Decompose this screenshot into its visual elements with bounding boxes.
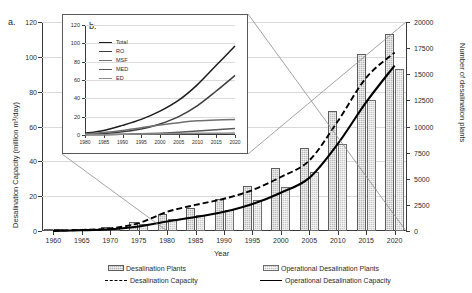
right-tick-label: 17500: [414, 45, 433, 52]
inset-x-tick: [123, 135, 124, 138]
legend-swatch-desalination-plants: [108, 265, 124, 271]
x-tick-label: 1980: [159, 237, 175, 244]
x-tick-label: 2015: [358, 237, 374, 244]
inset-x-tick-label: 2000: [154, 139, 165, 145]
x-tick-label: 1985: [188, 237, 204, 244]
x-tick-label: 1970: [102, 237, 118, 244]
leader-line-0: [248, 14, 406, 231]
inset-y-tick-label: 80: [63, 59, 80, 65]
x-tick: [366, 231, 367, 235]
inset-legend-line-med: [99, 69, 112, 71]
x-tick: [196, 231, 197, 235]
inset-x-tick-label: 1990: [117, 139, 128, 145]
inset-x-tick-label: 1995: [136, 139, 147, 145]
left-tick-label: 0: [12, 228, 37, 235]
right-tick-label: 7500: [414, 149, 430, 156]
inset-legend-label-ro: RO: [116, 48, 124, 54]
left-axis-title: Desalination Capacity (million m³/day): [12, 102, 20, 228]
left-tick-label: 80: [12, 88, 37, 95]
inset-legend-label-msf: MSF: [116, 57, 128, 63]
right-tick-label: 20000: [414, 19, 433, 26]
right-tick-label: 10000: [414, 123, 433, 130]
left-tick: [38, 231, 42, 232]
x-tick-label: 2020: [387, 237, 403, 244]
inset-legend-label-total: Total: [116, 39, 128, 45]
left-tick-label: 60: [12, 123, 37, 130]
inset-x-tick: [179, 135, 180, 138]
inset-legend-line-total: [99, 42, 112, 44]
x-tick: [395, 231, 396, 235]
x-tick: [338, 231, 339, 235]
x-tick: [110, 231, 111, 235]
legend-label-desalination-plants: Desalination Plants: [126, 265, 186, 272]
inset-x-tick: [198, 135, 199, 138]
figure-canvas: a. Desalination Capacity (million m³/day…: [0, 0, 472, 293]
right-tick-label: 15000: [414, 71, 433, 78]
inset-y-tick-label: 120: [63, 22, 80, 28]
legend-line-operational-desalination-capacity: [260, 280, 282, 281]
right-tick-label: 0: [414, 228, 418, 235]
inset-y-tick-label: 40: [63, 95, 80, 101]
legend-line-desalination-capacity: [105, 280, 127, 281]
inset-legend-label-ed: ED: [116, 75, 124, 81]
inset-panel-b: b. 020406080100120 198019851990199520002…: [62, 14, 248, 154]
inset-line-msf: [85, 119, 235, 134]
inset-y-tick-label: 100: [63, 40, 80, 46]
leader-line-2: [248, 22, 406, 154]
inset-legend-line-ro: [99, 51, 112, 53]
inset-x-tick: [141, 135, 142, 138]
inset-legend-label-med: MED: [116, 66, 128, 72]
left-tick-label: 40: [12, 158, 37, 165]
x-tick: [167, 231, 168, 235]
right-tick-label: 12500: [414, 97, 433, 104]
x-tick: [309, 231, 310, 235]
inset-x-tick: [160, 135, 161, 138]
x-axis-title: Year: [214, 250, 229, 258]
x-tick: [139, 231, 140, 235]
inset-y-tick-label: 20: [63, 114, 80, 120]
inset-y-tick-label: 60: [63, 77, 80, 83]
right-axis-title: Number of desalination plants: [459, 43, 467, 142]
x-tick-label: 1965: [74, 237, 90, 244]
inset-x-tick-label: 2015: [211, 139, 222, 145]
inset-legend-line-ed: [99, 78, 112, 80]
legend-label-desalination-capacity: Desalination Capacity: [130, 277, 198, 284]
legend-label-operational-desalination-capacity: Operational Desalination Capacity: [285, 277, 391, 284]
right-tick-label: 2500: [414, 201, 430, 208]
x-tick: [252, 231, 253, 235]
inset-x-tick-label: 2010: [192, 139, 203, 145]
x-tick-label: 2010: [330, 237, 346, 244]
x-tick-label: 1975: [131, 237, 147, 244]
x-tick-label: 1995: [245, 237, 261, 244]
inset-x-tick-label: 2005: [173, 139, 184, 145]
left-tick-label: 20: [12, 193, 37, 200]
inset-legend-line-msf: [99, 60, 112, 62]
inset-x-tick: [235, 135, 236, 138]
chart-legend: Desalination Plants Operational Desalina…: [0, 258, 472, 288]
leader-line-1: [62, 154, 167, 231]
inset-x-tick-label: 2020: [229, 139, 240, 145]
x-tick: [82, 231, 83, 235]
inset-x-tick: [104, 135, 105, 138]
x-tick-label: 2005: [302, 237, 318, 244]
x-tick-label: 1990: [216, 237, 232, 244]
legend-swatch-operational-desalination-plants: [263, 265, 279, 271]
left-tick-label: 100: [12, 53, 37, 60]
right-tick: [406, 231, 410, 232]
legend-label-operational-desalination-plants: Operational Desalination Plants: [281, 265, 379, 272]
x-tick: [224, 231, 225, 235]
left-tick-label: 120: [12, 19, 37, 26]
right-axis-spine: [406, 22, 407, 231]
x-tick: [281, 231, 282, 235]
inset-x-tick: [216, 135, 217, 138]
x-tick-label: 2000: [273, 237, 289, 244]
x-tick-label: 1960: [46, 237, 62, 244]
inset-y-tick-label: 0: [63, 132, 80, 138]
inset-x-tick-label: 1980: [79, 139, 90, 145]
right-tick-label: 5000: [414, 175, 430, 182]
inset-x-tick-label: 1985: [98, 139, 109, 145]
